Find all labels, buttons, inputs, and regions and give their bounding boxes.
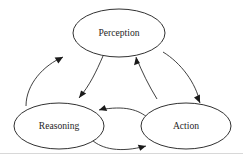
- node-perception-label: Perception: [98, 27, 139, 38]
- edge-perception-to-action-arrowhead: [194, 95, 200, 103]
- node-reasoning[interactable]: Reasoning: [14, 103, 104, 149]
- node-reasoning-label: Reasoning: [39, 120, 80, 131]
- edge-reasoning-to-action-path: [92, 140, 146, 150]
- node-action-label: Action: [173, 120, 199, 131]
- edge-perception-to-action-path: [163, 52, 200, 103]
- diagram-canvas: Perception Reasoning Action: [0, 0, 243, 157]
- edge-reasoning-to-action-arrowhead: [138, 145, 146, 151]
- node-action[interactable]: Action: [141, 103, 231, 149]
- cycle-diagram: Perception Reasoning Action: [0, 0, 243, 157]
- edge-action-to-perception: [134, 57, 157, 99]
- edge-action-to-reasoning: [99, 105, 148, 118]
- edge-reasoning-to-action: [92, 140, 146, 151]
- edge-action-to-reasoning-arrowhead: [99, 105, 107, 111]
- edge-perception-to-action: [163, 52, 200, 103]
- edge-action-to-perception-path: [136, 57, 157, 99]
- edge-reasoning-to-perception: [26, 57, 63, 106]
- edge-perception-to-reasoning-arrowhead: [79, 91, 86, 98]
- node-perception[interactable]: Perception: [73, 9, 165, 57]
- edge-perception-to-reasoning: [79, 56, 103, 98]
- edge-reasoning-to-perception-path: [26, 57, 63, 106]
